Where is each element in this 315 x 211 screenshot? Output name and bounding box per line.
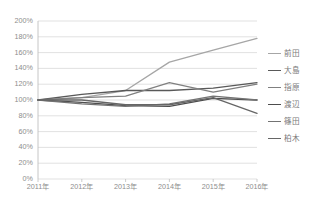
legend-item[interactable]: 柏木 xyxy=(268,130,315,147)
y-tick-label: 20% xyxy=(19,159,33,167)
x-tick-label: 2014年 xyxy=(158,182,181,191)
y-tick-label: 40% xyxy=(19,143,33,151)
legend-label: 前田 xyxy=(284,49,300,58)
legend-item[interactable]: 大島 xyxy=(268,62,315,79)
y-tick-label: 100% xyxy=(15,96,33,104)
y-tick-label: 120% xyxy=(15,80,33,88)
legend-label: 篠田 xyxy=(284,117,300,126)
legend-swatch-icon xyxy=(268,104,281,105)
legend-label: 指原 xyxy=(284,83,300,92)
legend-item[interactable]: 篠田 xyxy=(268,113,315,130)
legend-swatch-icon xyxy=(268,121,281,122)
x-axis: 2011年2012年2013年2014年2015年2016年 xyxy=(38,182,257,198)
chart-legend: 前田大島指原渡辺篠田柏木 xyxy=(268,45,315,147)
y-tick-label: 160% xyxy=(15,49,33,57)
legend-item[interactable]: 前田 xyxy=(268,45,315,62)
legend-swatch-icon xyxy=(268,53,281,54)
x-tick-label: 2012年 xyxy=(70,182,93,191)
x-tick-label: 2015年 xyxy=(202,182,225,191)
legend-label: 渡辺 xyxy=(284,100,300,109)
y-tick-label: 80% xyxy=(19,112,33,120)
legend-label: 柏木 xyxy=(284,134,300,143)
legend-swatch-icon xyxy=(268,138,281,139)
x-tick-label: 2011年 xyxy=(27,182,49,191)
y-tick-label: 140% xyxy=(15,64,33,72)
legend-label: 大島 xyxy=(284,66,300,75)
x-tick-label: 2013年 xyxy=(114,182,137,191)
x-tick-label: 2016年 xyxy=(246,182,269,191)
legend-swatch-icon xyxy=(268,87,281,88)
legend-item[interactable]: 渡辺 xyxy=(268,96,315,113)
legend-item[interactable]: 指原 xyxy=(268,79,315,96)
plot-area xyxy=(38,21,257,179)
y-tick-label: 60% xyxy=(19,128,33,136)
y-tick-label: 180% xyxy=(15,33,33,41)
y-axis: 200%180%160%140%120%100%80%60%40%20%0% xyxy=(0,14,36,186)
y-tick-label: 200% xyxy=(15,17,33,25)
line-chart: 200%180%160%140%120%100%80%60%40%20%0% 2… xyxy=(0,0,315,211)
series-lines xyxy=(38,21,257,179)
legend-swatch-icon xyxy=(268,70,281,71)
